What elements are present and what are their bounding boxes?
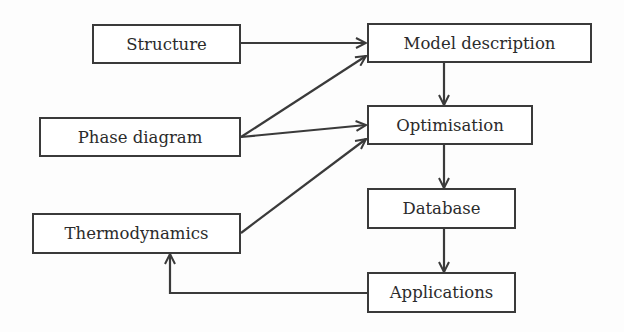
edge-thermodynamics-to-optimisation xyxy=(241,139,366,233)
edge-applications-to-thermodynamics xyxy=(170,254,367,293)
node-thermodynamics: Thermodynamics xyxy=(32,213,241,254)
edge-phase-diagram-to-optimisation xyxy=(241,125,366,137)
node-label: Model description xyxy=(404,34,556,53)
node-label: Structure xyxy=(126,35,207,54)
node-label: Optimisation xyxy=(396,116,504,135)
node-database: Database xyxy=(367,188,516,229)
node-label: Database xyxy=(402,199,480,218)
node-label: Applications xyxy=(390,283,494,302)
node-label: Phase diagram xyxy=(78,128,203,147)
node-optimisation: Optimisation xyxy=(367,105,533,145)
node-label: Thermodynamics xyxy=(65,224,209,243)
node-model-description: Model description xyxy=(367,23,592,63)
flowchart-canvas: Structure Phase diagram Thermodynamics M… xyxy=(0,0,624,332)
node-phase-diagram: Phase diagram xyxy=(39,117,241,157)
node-applications: Applications xyxy=(367,272,516,313)
edge-phase-diagram-to-model-description xyxy=(241,56,366,137)
node-structure: Structure xyxy=(92,24,241,64)
